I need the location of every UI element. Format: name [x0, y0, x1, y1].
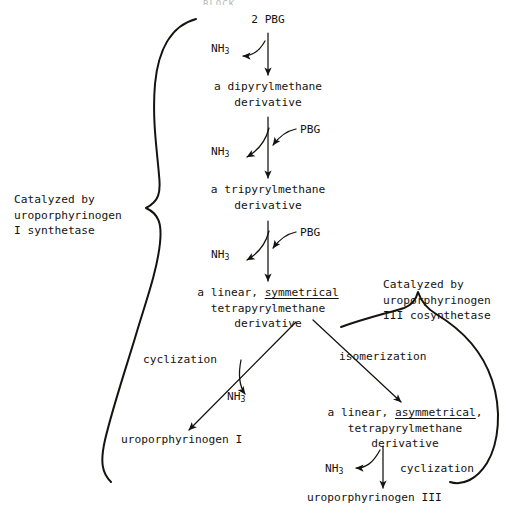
arrow-nh3-1	[243, 41, 265, 56]
enzyme-label-right: Catalyzed byuroporphyrinogenIII cosynthe…	[383, 277, 491, 324]
arrow-nh3-2	[247, 128, 269, 157]
node-product-uroporphyrinogen-iii: uroporphyrinogen III	[307, 490, 442, 506]
brace-left	[102, 19, 196, 482]
reagent-ammonia-2: NH3	[211, 144, 229, 163]
reaction-cyclization-right: cyclization	[400, 461, 474, 477]
pathway-diagram: BLOCK	[0, 0, 526, 522]
ammonia-5-subscript: 3	[338, 466, 343, 476]
enzyme-right-line3: III cosynthetase	[383, 309, 491, 322]
arrow-pbg-2	[273, 232, 296, 248]
ammonia-1-formula: NH	[211, 42, 224, 55]
ammonia-4-subscript: 3	[240, 394, 245, 404]
ammonia-2-subscript: 3	[224, 149, 229, 159]
reaction-isomerization: isomerization	[339, 349, 427, 365]
enzyme-left-line1: Catalyzed by	[14, 193, 95, 206]
enzyme-left-line2: uroporphyrinogen	[14, 209, 122, 222]
node-asymmetrical-tetrapyrylmethane: a linear, asymmetrical,tetrapyrylmethane…	[328, 405, 483, 452]
symmetrical-emphasis: symmetrical	[265, 286, 339, 299]
arrow-nh3-3	[247, 231, 269, 260]
symmetrical-line3: derivative	[234, 317, 301, 330]
ammonia-3-subscript: 3	[224, 252, 229, 262]
enzyme-right-line1: Catalyzed by	[383, 278, 464, 291]
reagent-ammonia-5: NH3	[325, 461, 343, 480]
reaction-cyclization-left: cyclization	[143, 352, 217, 368]
ammonia-3-formula: NH	[211, 248, 224, 261]
node-dipyrylmethane-line1: a dipyrylmethane	[214, 80, 322, 93]
ammonia-2-formula: NH	[211, 145, 224, 158]
asymmetrical-emphasis: asymmetrical	[395, 406, 476, 419]
reagent-pbg-1: PBG	[300, 122, 320, 138]
node-tripyrylmethane: a tripyrylmethanederivative	[211, 182, 326, 213]
node-dipyrylmethane-line2: derivative	[234, 96, 301, 109]
reagent-ammonia-1: NH3	[211, 41, 229, 60]
asymmetrical-line3: derivative	[371, 437, 438, 450]
arrow-cyclization-left	[189, 322, 296, 430]
ammonia-5-formula: NH	[325, 462, 338, 475]
symmetrical-prefix: a linear,	[197, 286, 264, 299]
reagent-ammonia-4: NH3	[227, 389, 245, 408]
enzyme-right-line2: uroporphyrinogen	[383, 294, 491, 307]
node-symmetrical-tetrapyrylmethane: a linear, symmetricaltetrapyrylmethanede…	[197, 285, 338, 332]
node-tripyrylmethane-line2: derivative	[234, 199, 301, 212]
arrow-nh3-5	[356, 450, 380, 468]
reagent-pbg-2: PBG	[300, 225, 320, 241]
enzyme-left-line3: I synthetase	[14, 224, 95, 237]
enzyme-label-left: Catalyzed byuroporphyrinogenI synthetase	[14, 192, 122, 239]
symmetrical-line2: tetrapyrylmethane	[211, 302, 326, 315]
asymmetrical-suffix: ,	[476, 406, 483, 419]
ammonia-1-subscript: 3	[224, 46, 229, 56]
asymmetrical-prefix: a linear,	[328, 406, 395, 419]
node-dipyrylmethane: a dipyrylmethanederivative	[214, 79, 322, 110]
node-product-uroporphyrinogen-i: uroporphyrinogen I	[121, 432, 242, 448]
arrow-pbg-1	[273, 129, 296, 145]
node-start: 2 PBG	[251, 12, 285, 28]
reagent-ammonia-3: NH3	[211, 247, 229, 266]
node-tripyrylmethane-line1: a tripyrylmethane	[211, 183, 326, 196]
asymmetrical-line2: tetrapyrylmethane	[348, 422, 463, 435]
ammonia-4-formula: NH	[227, 390, 240, 403]
